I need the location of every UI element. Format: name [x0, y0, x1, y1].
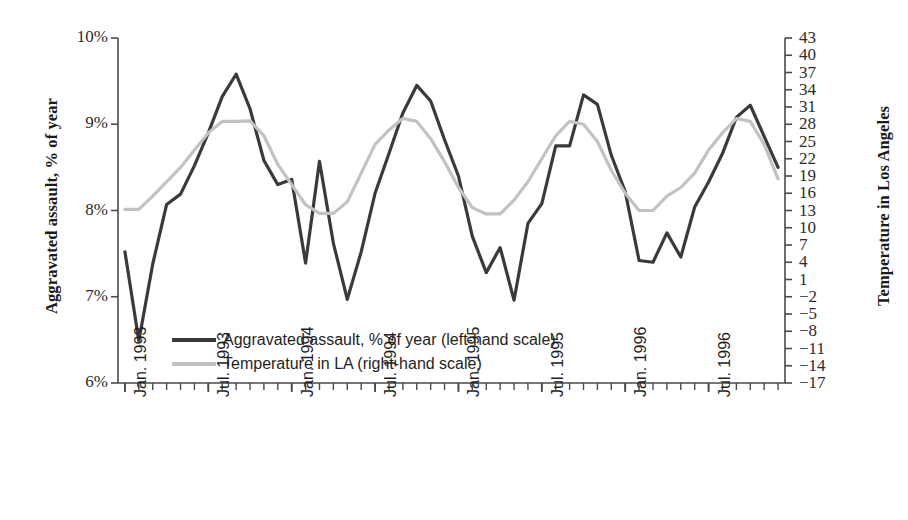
data-series [125, 74, 778, 341]
legend-label: Aggravated assault, % of year (left-hand… [223, 332, 556, 348]
legend-swatch-light-icon [172, 362, 216, 366]
y-axis-left-tick-label: 8% [56, 200, 108, 220]
plot-area [0, 0, 908, 520]
chart-container: Aggravated assault, % of year Temperatur… [0, 0, 908, 520]
y-axis-left-tick-label: 6% [56, 372, 108, 392]
legend-label: Temperature in LA (right-hand scale) [223, 356, 482, 372]
x-axis-tick-label: Jan. 1993 [132, 327, 150, 397]
legend-item: Aggravated assault, % of year (left-hand… [172, 328, 556, 352]
y-axis-left-tick-label: 10% [56, 27, 108, 47]
legend-item: Temperature in LA (right-hand scale) [172, 352, 556, 376]
y-axis-right-tick-label: −17 [799, 373, 841, 393]
x-axis-tick-label: Jul. 1996 [716, 332, 734, 397]
x-axis-tick-label: Jan. 1996 [632, 327, 650, 397]
y-axis-left-tick-label: 7% [56, 286, 108, 306]
legend-swatch-dark-icon [172, 338, 216, 342]
chart-legend: Aggravated assault, % of year (left-hand… [172, 328, 556, 376]
y-axis-left-tick-label: 9% [56, 113, 108, 133]
